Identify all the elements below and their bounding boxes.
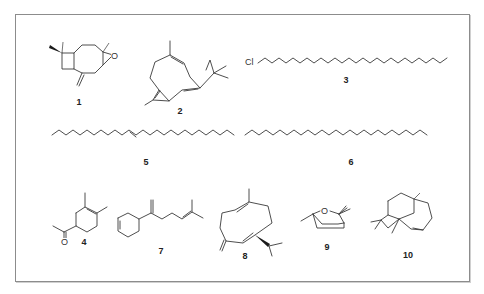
compound-5-structure — [52, 130, 234, 137]
ether-oxygen-atom: O — [321, 207, 328, 216]
compound-4-structure — [53, 193, 107, 240]
compound-label-5: 5 — [143, 158, 148, 167]
compound-8-structure — [220, 189, 282, 256]
compound-label-3: 3 — [343, 76, 348, 85]
chlorine-atom: Cl — [245, 58, 254, 67]
compound-6-structure — [245, 130, 427, 135]
compound-label-8: 8 — [242, 252, 247, 261]
epoxide-oxygen-atom: O — [111, 52, 118, 61]
compound-label-10: 10 — [403, 251, 413, 260]
compound-1-structure — [49, 42, 113, 86]
compound-7-structure — [118, 200, 203, 237]
compound-label-9: 9 — [324, 243, 329, 252]
ketone-oxygen-atom: O — [61, 238, 68, 247]
compound-2-structure — [145, 41, 228, 105]
compound-label-4: 4 — [81, 238, 86, 247]
compound-3-structure — [258, 58, 447, 63]
compound-label-6: 6 — [348, 158, 353, 167]
compound-label-7: 7 — [158, 247, 163, 256]
compound-10-structure — [371, 193, 432, 233]
compound-label-1: 1 — [76, 98, 81, 107]
compound-label-2: 2 — [177, 107, 182, 116]
